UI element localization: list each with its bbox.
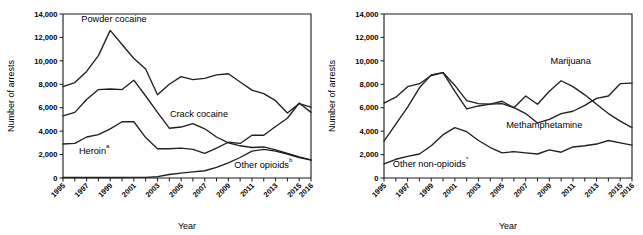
- x-axis-tick-label: 2016: [618, 181, 636, 199]
- x-axis-title: Year: [178, 221, 196, 231]
- x-axis-title: Year: [499, 221, 517, 231]
- series-label-methamphetamine: Methamphetamine: [506, 120, 582, 130]
- series-label-heroin: Heroina: [79, 141, 110, 156]
- y-axis-tick-label: 2,000: [38, 150, 57, 159]
- y-axis-tick-label: 6,000: [359, 103, 378, 112]
- x-axis-tick-label: 1999: [96, 181, 114, 199]
- x-axis-tick-label: 2013: [583, 181, 601, 199]
- y-axis-tick-label: 0: [374, 174, 378, 183]
- x-axis-tick-label: 2005: [488, 181, 506, 199]
- y-axis-tick-label: 14,000: [355, 10, 378, 19]
- y-axis-tick-label: 6,000: [38, 103, 57, 112]
- y-axis-tick-label: 12,000: [34, 33, 57, 42]
- x-axis-tick-label: 2007: [512, 181, 530, 199]
- x-axis-tick-label: 1995: [370, 181, 388, 199]
- x-axis-tick-label: 1995: [49, 181, 67, 199]
- chart-panel-right: 02,0004,0006,0008,00010,00012,00014,0001…: [321, 0, 642, 235]
- series-line-powder-cocaine: [63, 30, 311, 113]
- y-axis-title: Number of arrests: [6, 59, 16, 132]
- series-label-marijuana: Marijuana: [551, 56, 592, 66]
- x-axis-tick-label: 2016: [297, 181, 315, 199]
- series-label-powder-cocaine: Powder cocaine: [81, 14, 146, 24]
- line-chart-right: 02,0004,0006,0008,00010,00012,00014,0001…: [321, 0, 642, 235]
- x-axis-tick-label: 2009: [535, 181, 553, 199]
- chart-panel-left: 02,0004,0006,0008,00010,00012,00014,0001…: [0, 0, 321, 235]
- x-axis-tick-label: 2005: [167, 181, 185, 199]
- y-axis-title: Number of arrests: [327, 59, 337, 132]
- x-axis-tick-label: 2001: [120, 181, 138, 199]
- x-axis-tick-label: 2003: [464, 181, 482, 199]
- y-axis-tick-label: 4,000: [359, 127, 378, 136]
- series-label-other-opioids: Other opioidsb: [234, 155, 293, 170]
- arrests-figure: 02,0004,0006,0008,00010,00012,00014,0001…: [0, 0, 643, 235]
- x-axis-tick-label: 2001: [441, 181, 459, 199]
- y-axis-tick-label: 14,000: [34, 10, 57, 19]
- line-chart-left: 02,0004,0006,0008,00010,00012,00014,0001…: [0, 0, 321, 235]
- x-axis-tick-label: 2011: [238, 181, 256, 199]
- x-axis-tick-label: 1999: [417, 181, 435, 199]
- y-axis-tick-label: 2,000: [359, 150, 378, 159]
- x-axis-tick-label: 2003: [143, 181, 161, 199]
- x-axis-tick-label: 2011: [559, 181, 577, 199]
- x-axis-tick-label: 2009: [214, 181, 232, 199]
- y-axis-tick-label: 10,000: [34, 57, 57, 66]
- y-axis-tick-label: 10,000: [355, 57, 378, 66]
- y-axis-tick-label: 0: [53, 174, 57, 183]
- y-axis-tick-label: 4,000: [38, 127, 57, 136]
- y-axis-tick-label: 8,000: [38, 80, 57, 89]
- y-axis-tick-label: 12,000: [355, 33, 378, 42]
- x-axis-tick-label: 2007: [191, 181, 209, 199]
- y-axis-tick-label: 8,000: [359, 80, 378, 89]
- x-axis-tick-label: 1997: [394, 181, 412, 199]
- x-axis-tick-label: 2013: [262, 181, 280, 199]
- series-label-crack-cocaine: Crack cocaine: [170, 109, 228, 119]
- x-axis-tick-label: 1997: [73, 181, 91, 199]
